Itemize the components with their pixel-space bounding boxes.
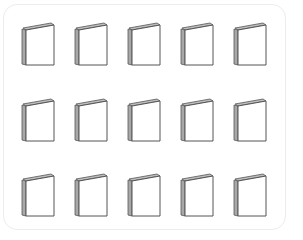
book-icon (73, 173, 111, 217)
book-icon (232, 22, 270, 66)
book-icon (179, 22, 217, 66)
book-icon (179, 98, 217, 142)
book-icon (20, 22, 58, 66)
book-icon (73, 98, 111, 142)
book-icon (232, 98, 270, 142)
book-icon (232, 173, 270, 217)
book-icon (126, 98, 164, 142)
book-icon (73, 22, 111, 66)
book-icon (20, 173, 58, 217)
book-icon (179, 173, 217, 217)
book-icon (126, 22, 164, 66)
book-icon (126, 173, 164, 217)
book-icon (20, 98, 58, 142)
